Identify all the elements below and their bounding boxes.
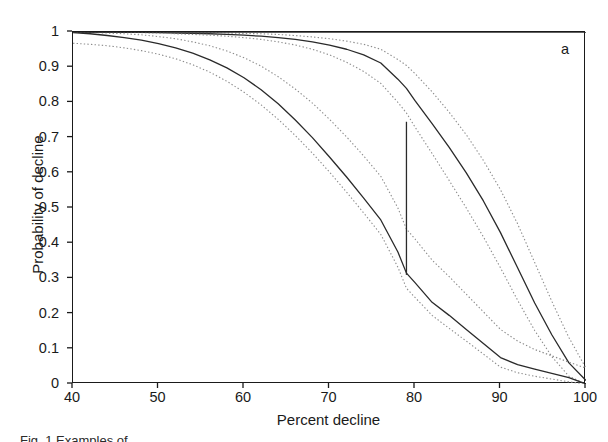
x-tick-label: 60: [235, 389, 251, 405]
x-tick-label: 70: [320, 389, 336, 405]
x-tick-label: 80: [406, 389, 422, 405]
figure-panel-a: a 00.10.20.30.40.50.60.70.80.91 40506070…: [0, 0, 608, 442]
figure-caption: Fig. 1 Examples of ...: [20, 433, 590, 442]
x-tick-label: 40: [64, 389, 80, 405]
x-tick-label: 50: [149, 389, 165, 405]
x-axis-title: Percent decline: [72, 411, 585, 428]
x-tick-label: 100: [573, 389, 597, 405]
y-axis-title: Probability of decline: [29, 90, 46, 320]
x-tick-label: 90: [491, 389, 507, 405]
x-axis-tick-labels: 405060708090100: [0, 0, 608, 442]
